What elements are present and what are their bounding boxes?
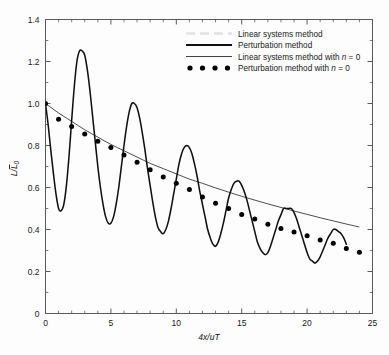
y-tick-label: 0.8 [28, 141, 40, 151]
legend-label: Linear systems method with n = 0 [238, 53, 361, 62]
x-tick-label: 5 [109, 318, 114, 328]
series-marker-perturbation-n0 [187, 187, 192, 192]
x-tick-label: 0 [43, 318, 48, 328]
y-tick-label: 0.6 [28, 183, 40, 193]
series-marker-perturbation-n0 [252, 217, 257, 222]
series-marker-perturbation-n0 [161, 175, 166, 180]
series-marker-perturbation-n0 [121, 152, 126, 157]
series-marker-perturbation-n0 [148, 167, 153, 172]
x-tick-label: 25 [368, 318, 378, 328]
legend-sample-circle-marker [200, 65, 205, 70]
series-marker-perturbation-n0 [265, 222, 270, 227]
y-tick-label: 1.4 [28, 15, 40, 25]
x-tick-label: 20 [302, 318, 312, 328]
x-axis-label: 4x/uT [198, 332, 220, 342]
y-tick-label: 1.2 [28, 57, 40, 67]
series-marker-perturbation-n0 [108, 145, 113, 150]
series-marker-perturbation-n0 [200, 194, 205, 199]
legend-label: Perturbation method [238, 41, 313, 50]
series-marker-perturbation-n0 [174, 181, 179, 186]
series-marker-perturbation-n0 [213, 201, 218, 206]
series-marker-perturbation-n0 [331, 241, 336, 246]
series-marker-perturbation-n0 [292, 230, 297, 235]
series-marker-perturbation-n0 [95, 139, 100, 144]
x-tick-label: 10 [172, 318, 182, 328]
series-marker-perturbation-n0 [318, 238, 323, 243]
series-marker-perturbation-n0 [135, 160, 140, 165]
y-tick-label: 1.0 [28, 99, 40, 109]
series-marker-perturbation-n0 [82, 131, 87, 136]
legend-label: Linear systems method [238, 30, 323, 39]
series-marker-perturbation-n0 [239, 212, 244, 217]
legend-sample-circle-marker [225, 65, 230, 70]
legend-label: Perturbation method with n = 0 [238, 64, 350, 73]
series-marker-perturbation-n0 [305, 233, 310, 238]
legend-sample-circle-marker [187, 65, 192, 70]
series-marker-perturbation-n0 [56, 117, 61, 122]
series-marker-perturbation-n0 [69, 124, 74, 129]
series-marker-perturbation-n0 [226, 206, 231, 211]
y-tick-label: 0.4 [28, 225, 40, 235]
y-tick-label: 0 [35, 309, 40, 319]
series-marker-perturbation-n0 [278, 226, 283, 231]
chart-canvas: 051015202500.20.40.60.81.01.21.44x/uTL/L… [0, 0, 389, 355]
legend-sample-circle-marker [212, 65, 217, 70]
series-marker-perturbation-n0 [357, 250, 362, 255]
series-marker-perturbation-n0 [344, 246, 349, 251]
chart-figure: 051015202500.20.40.60.81.01.21.44x/uTL/L… [0, 0, 389, 355]
y-tick-label: 0.2 [28, 267, 40, 277]
x-tick-label: 15 [237, 318, 247, 328]
